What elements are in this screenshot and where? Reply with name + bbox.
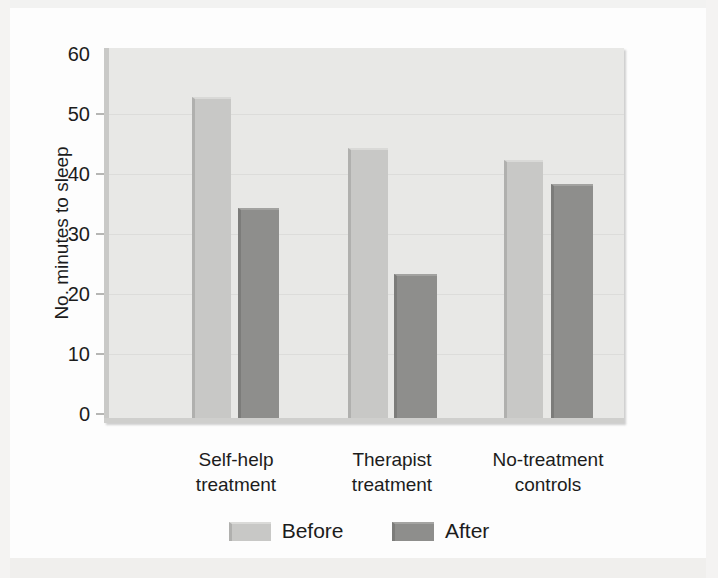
legend-label-after: After <box>445 519 489 543</box>
legend-entry-after[interactable]: After <box>392 519 489 543</box>
legend-entry-before[interactable]: Before <box>229 519 344 543</box>
x-label-no-treatment: No-treatment controls <box>453 447 643 497</box>
y-tick-label-50: 50 <box>50 104 90 124</box>
plot-panel-bottom-edge <box>104 418 624 423</box>
x-label-no-treatment-line1: No-treatment <box>453 447 643 472</box>
y-tick-label-10: 10 <box>50 344 90 364</box>
plot-panel <box>104 48 624 423</box>
legend-swatch-before-icon <box>229 522 271 541</box>
bar-self-help-after[interactable] <box>238 208 279 418</box>
bar-therapist-before[interactable] <box>348 148 388 418</box>
bar-chart: No. minutes to sleep 60 50 40 30 20 10 0 <box>0 0 718 578</box>
plot-panel-left-edge <box>104 48 109 423</box>
x-label-no-treatment-line2: controls <box>453 472 643 497</box>
bar-no-treatment-after[interactable] <box>551 184 593 418</box>
figure-surface: No. minutes to sleep 60 50 40 30 20 10 0 <box>0 0 718 578</box>
y-tick-label-60: 60 <box>50 44 90 64</box>
bar-therapist-after[interactable] <box>394 274 437 418</box>
y-tick-label-30: 30 <box>50 224 90 244</box>
bar-no-treatment-before[interactable] <box>504 160 543 418</box>
y-tick-label-0: 0 <box>50 404 90 424</box>
legend: Before After <box>0 519 718 543</box>
legend-swatch-after-icon <box>392 522 434 541</box>
y-tick-label-20: 20 <box>50 284 90 304</box>
y-tick-label-40: 40 <box>50 164 90 184</box>
bar-self-help-before[interactable] <box>192 97 231 418</box>
gridline-50 <box>109 114 624 115</box>
legend-label-before: Before <box>282 519 344 543</box>
